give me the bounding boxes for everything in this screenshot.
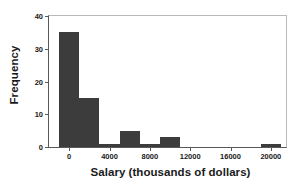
x-axis-tick-mark (150, 147, 151, 151)
x-axis-tick-label: 8000 (142, 152, 159, 161)
x-axis-tick-label: 20000 (260, 152, 281, 161)
y-axis-tick-label: 30 (35, 44, 43, 53)
histogram-bar (79, 98, 99, 147)
histogram-chart: Frequency 010203040040008000120001600020… (0, 0, 301, 189)
y-axis-tick-mark (45, 16, 49, 17)
plot-frame: 010203040040008000120001600020000 (48, 15, 287, 148)
x-axis-tick-mark (231, 147, 232, 151)
x-axis-tick-label: 16000 (220, 152, 241, 161)
x-axis-tick-mark (69, 147, 70, 151)
x-axis-title: Salary (thousands of dollars) (48, 166, 293, 178)
histogram-bar (59, 32, 79, 147)
y-axis-tick-label: 40 (35, 12, 43, 21)
x-axis-tick-mark (271, 147, 272, 151)
y-axis-tick-label: 10 (35, 110, 43, 119)
x-axis-tick-label: 12000 (180, 152, 201, 161)
y-axis-tick-label: 0 (39, 143, 43, 152)
x-axis-tick-mark (110, 147, 111, 151)
y-axis-tick-mark (45, 49, 49, 50)
x-axis-tick-label: 0 (67, 152, 71, 161)
histogram-bar (120, 131, 140, 147)
y-axis-tick-mark (45, 82, 49, 83)
y-axis-tick-label: 20 (35, 77, 43, 86)
y-axis-tick-mark (45, 147, 49, 148)
y-axis-title-label: Frequency (8, 45, 20, 104)
x-axis-tick-mark (190, 147, 191, 151)
histogram-bar (160, 137, 180, 147)
y-axis-tick-mark (45, 114, 49, 115)
y-axis-title: Frequency (4, 0, 24, 150)
plot-area (49, 16, 286, 147)
x-axis-tick-label: 4000 (101, 152, 118, 161)
